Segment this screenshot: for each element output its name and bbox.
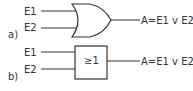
- input-label-e2: E2: [24, 22, 37, 33]
- or-gate-shape: [72, 4, 111, 37]
- input-label-e1: E1: [24, 47, 37, 58]
- output-label-a: A=E1 v E2: [141, 15, 193, 26]
- diagram-a: E1 E2 a) A=E1 v E2: [8, 4, 193, 40]
- diagram-b: E1 E2 b) ≥1 A=E1 v E2: [8, 46, 193, 82]
- input-label-e1: E1: [24, 6, 37, 17]
- diagram-label-a: a): [8, 29, 18, 40]
- gate-symbol: ≥1: [84, 55, 99, 66]
- diagram-label-b: b): [8, 71, 18, 82]
- logic-gates-diagram: E1 E2 a) A=E1 v E2 E1 E2 b) ≥1 A=E1 v E2: [0, 0, 193, 91]
- input-label-e2: E2: [24, 64, 37, 75]
- output-label-b: A=E1 v E2: [141, 56, 193, 67]
